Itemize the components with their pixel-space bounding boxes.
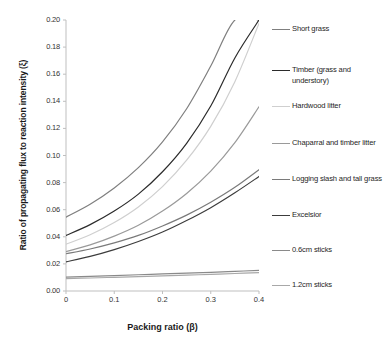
legend-item[interactable]: Chaparral and timber litter (272, 138, 388, 149)
legend-line-icon (272, 179, 290, 180)
legend-line-icon (272, 143, 290, 144)
legend-label: Timber (grass and understory) (290, 65, 388, 86)
axis-lines (66, 20, 259, 291)
legend-item[interactable]: Timber (grass and understory) (272, 65, 388, 86)
legend-item[interactable]: 1.2cm sticks (272, 280, 388, 291)
legend-item[interactable]: Short grass (272, 24, 388, 35)
chart-figure: Ratio of propagating flux to reaction in… (0, 0, 392, 347)
legend-label: Logging slash and tall grass (290, 174, 388, 185)
legend-label: 1.2cm sticks (290, 280, 388, 291)
legend-item[interactable]: 0.6cm sticks (272, 245, 388, 256)
legend-line-icon (272, 106, 290, 107)
data-curve (66, 20, 259, 235)
legend-item[interactable]: Excelsior (272, 210, 388, 221)
legend-label: Short grass (290, 24, 388, 35)
legend-label: Hardwood litter (290, 101, 388, 112)
data-curves (66, 17, 259, 279)
legend-label: Chaparral and timber litter (290, 138, 388, 149)
legend-line-icon (272, 285, 290, 286)
legend-line-icon (272, 215, 290, 216)
legend-label: Excelsior (290, 210, 388, 221)
legend-line-icon (272, 29, 290, 30)
legend-item[interactable]: Logging slash and tall grass (272, 174, 388, 185)
chart-legend: Short grassTimber (grass and understory)… (272, 14, 392, 299)
data-curve (66, 107, 259, 252)
data-curve (66, 177, 259, 262)
legend-line-icon (272, 250, 290, 251)
legend-line-icon (272, 70, 290, 71)
legend-label: 0.6cm sticks (290, 245, 388, 256)
legend-item[interactable]: Hardwood litter (272, 101, 388, 112)
